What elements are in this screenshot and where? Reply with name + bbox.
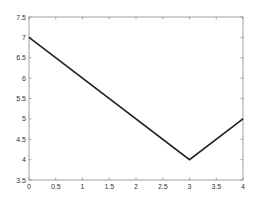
x-tick-label: 4: [241, 183, 245, 190]
y-tick-label: 7.5: [16, 14, 26, 21]
x-tick-label: 3: [188, 183, 192, 190]
x-tick-label: 2.5: [158, 183, 168, 190]
plot-frame: [29, 17, 243, 180]
y-tick-label: 7: [22, 34, 26, 41]
data-series: [29, 37, 243, 159]
series-line: [29, 37, 243, 159]
y-tick-label: 5: [22, 115, 26, 122]
line-chart: 00.511.522.533.54 3.544.555.566.577.5: [0, 0, 258, 199]
x-tick-label: 3.5: [211, 183, 221, 190]
y-tick-label: 5.5: [16, 95, 26, 102]
x-tick-label: 1.5: [104, 183, 114, 190]
y-tick-label: 3.5: [16, 177, 26, 184]
x-tick-label: 0: [27, 183, 31, 190]
y-tick-label: 4: [22, 156, 26, 163]
y-axis-ticks: 3.544.555.566.577.5: [16, 14, 243, 184]
x-tick-label: 0.5: [51, 183, 61, 190]
y-tick-label: 6: [22, 75, 26, 82]
axes: [29, 17, 243, 180]
x-axis-ticks: 00.511.522.533.54: [27, 17, 245, 190]
y-tick-label: 6.5: [16, 54, 26, 61]
x-tick-label: 1: [81, 183, 85, 190]
y-tick-label: 4.5: [16, 136, 26, 143]
x-tick-label: 2: [134, 183, 138, 190]
